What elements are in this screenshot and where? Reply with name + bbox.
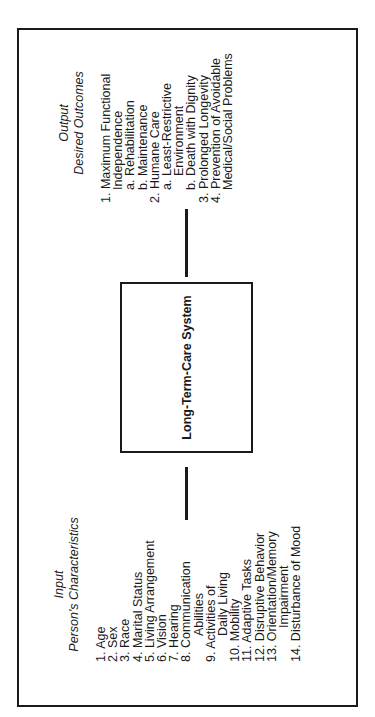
input-item: 1. Age	[95, 412, 107, 662]
input-item: 14. Disturbance of Mood	[290, 412, 302, 662]
output-column: Output Desired Outcomes 1. Maximum Funct…	[57, 3, 234, 203]
output-item-continuation: Medical/Social Problems	[222, 3, 234, 203]
system-label: Long-Term-Care System	[180, 295, 194, 439]
diagram-canvas: Input Person's Characteristics 1. Age 2.…	[0, 0, 375, 717]
system-box: Long-Term-Care System	[120, 282, 253, 453]
output-list: 1. Maximum Functional Independence a. Re…	[100, 3, 234, 203]
input-subtitle: Person's Characteristics	[67, 507, 82, 662]
input-connector-line	[185, 467, 188, 520]
output-connector-line	[185, 209, 188, 277]
input-title: Input	[52, 507, 67, 662]
output-title: Output	[57, 53, 72, 193]
output-subtitle: Desired Outcomes	[72, 53, 87, 193]
